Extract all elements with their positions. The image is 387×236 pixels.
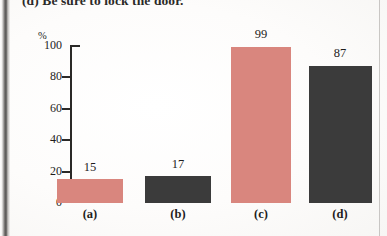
bar-a: [57, 179, 123, 203]
bar-value-d: 87: [310, 46, 370, 61]
y-tick-label-40: 40: [32, 132, 62, 147]
x-axis-label-a: (a): [60, 207, 120, 222]
y-tick-label-100: 100: [32, 38, 62, 53]
x-axis-label-d: (d): [310, 207, 370, 222]
bar-d: [309, 66, 372, 203]
bar-chart: % 100 80 60 40 20 0 15 17 99 87 (a) (b) …: [0, 0, 387, 236]
bar-value-c: 99: [231, 27, 291, 42]
y-tick-label-60: 60: [32, 101, 62, 116]
bar-value-b: 17: [148, 157, 208, 172]
y-tick-label-80: 80: [32, 69, 62, 84]
bar-b: [145, 176, 211, 203]
y-axis-tick-60: [62, 108, 71, 110]
y-tick-label-20: 20: [32, 164, 62, 179]
y-axis-tick-40: [62, 139, 71, 141]
y-axis-tick-100: [70, 45, 80, 47]
y-axis-tick-80: [62, 76, 71, 78]
x-axis-label-c: (c): [231, 207, 291, 222]
bar-c: [231, 47, 291, 203]
bar-value-a: 15: [60, 160, 120, 175]
x-axis-label-b: (b): [148, 207, 208, 222]
